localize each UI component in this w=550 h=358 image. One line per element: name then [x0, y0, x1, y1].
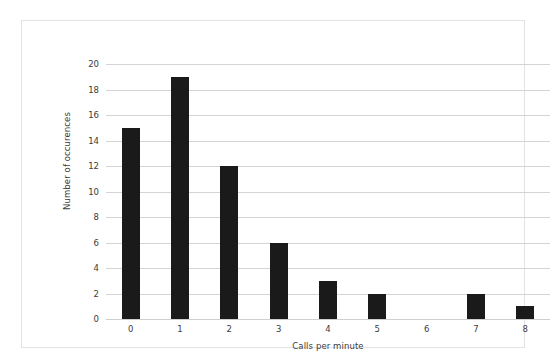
x-axis-tick-label: 5	[375, 324, 380, 334]
y-axis-tick-label: 10	[88, 187, 99, 197]
x-axis-tick-label: 2	[227, 324, 232, 334]
axis-baseline	[106, 319, 550, 320]
bar	[270, 243, 288, 320]
y-axis-tick-label: 14	[88, 136, 99, 146]
y-axis-tick-label: 16	[88, 110, 99, 120]
plot-area: 02468101214161820 012345678	[106, 64, 550, 319]
y-axis-tick-label: 2	[94, 289, 99, 299]
bar-group: 2	[205, 64, 254, 319]
x-axis-tick-label: 0	[128, 324, 133, 334]
bar-group: 6	[402, 64, 451, 319]
bar	[368, 294, 386, 320]
bar-series: 012345678	[106, 64, 550, 319]
bar	[516, 306, 534, 319]
chart-frame: Number of occurences 02468101214161820 0…	[21, 20, 525, 348]
x-axis-tick-label: 8	[523, 324, 528, 334]
y-axis-tick-label: 18	[88, 85, 99, 95]
bar	[122, 128, 140, 319]
x-axis-tick-label: 6	[424, 324, 429, 334]
bar	[467, 294, 485, 320]
bar-group: 4	[303, 64, 352, 319]
bar	[319, 281, 337, 319]
y-axis-title: Number of occurences	[60, 21, 74, 301]
y-axis-tick-label: 0	[94, 314, 99, 324]
x-axis-title: Calls per minute	[106, 341, 550, 351]
x-axis-tick-label: 3	[276, 324, 281, 334]
y-axis-tick-label: 12	[88, 161, 99, 171]
bar-group: 8	[501, 64, 550, 319]
y-axis-tick-label: 6	[94, 238, 99, 248]
y-axis-tick-label: 8	[94, 212, 99, 222]
x-axis-tick-label: 4	[325, 324, 330, 334]
y-axis-tick-label: 4	[94, 263, 99, 273]
bar	[220, 166, 238, 319]
bar-group: 3	[254, 64, 303, 319]
bar-group: 5	[353, 64, 402, 319]
bar-group: 7	[451, 64, 500, 319]
bar-group: 0	[106, 64, 155, 319]
bar-group: 1	[155, 64, 204, 319]
x-axis-tick-label: 7	[473, 324, 478, 334]
x-axis-tick-label: 1	[177, 324, 182, 334]
y-axis-tick-label: 20	[88, 59, 99, 69]
bar	[171, 77, 189, 319]
